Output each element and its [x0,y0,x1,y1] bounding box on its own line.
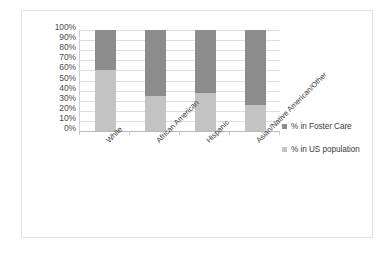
y-axis-tick-label: 40% [44,84,76,93]
legend-label: % in US population [291,145,360,154]
bar-segment-foster-care[interactable] [145,30,166,96]
y-axis-tick-label: 90% [44,33,76,42]
bar-segment-us-population[interactable] [145,96,166,131]
chart-frame: 100%90%80%70%60%50%40%30%20%10%0% WhiteA… [21,10,373,238]
chart-legend: % in Foster Care% in US population [282,122,384,168]
y-axis-tick-label: 70% [44,53,76,62]
bar-column[interactable] [195,30,216,131]
bar-segment-foster-care[interactable] [245,30,266,105]
y-axis-tick-label: 60% [44,63,76,72]
legend-swatch-icon [282,124,287,129]
bar-segment-foster-care[interactable] [195,30,216,93]
bar-segment-us-population[interactable] [95,70,116,131]
legend-swatch-icon [282,147,287,152]
y-axis-tick-label: 50% [44,74,76,83]
y-axis-tick-label: 100% [44,23,76,32]
bar-segment-us-population[interactable] [245,105,266,131]
legend-label: % in Foster Care [291,122,352,131]
y-axis-tick-label: 80% [44,43,76,52]
y-axis-tick-label: 0% [44,124,76,133]
bar-segment-us-population[interactable] [195,93,216,131]
y-axis-tick-label: 30% [44,94,76,103]
legend-entry[interactable]: % in US population [282,145,384,154]
bar-segment-foster-care[interactable] [95,30,116,70]
y-axis-tick-label: 20% [44,104,76,113]
y-axis-tick-label: 10% [44,114,76,123]
legend-entry[interactable]: % in Foster Care [282,122,384,131]
bar-column[interactable] [145,30,166,131]
bar-column[interactable] [245,30,266,131]
y-axis: 100%90%80%70%60%50%40%30%20%10%0% [44,27,76,128]
bar-column[interactable] [95,30,116,131]
